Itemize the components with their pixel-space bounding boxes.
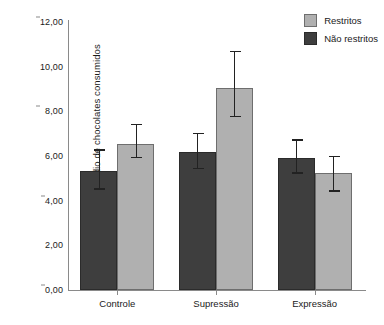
y-axis-tick-label: 10,00 bbox=[40, 62, 63, 72]
y-axis-tick-label: 8,00 bbox=[45, 106, 63, 116]
legend-item-restritos: Restritos bbox=[304, 14, 378, 27]
bar-group bbox=[68, 22, 167, 290]
y-axis-tick-label: 6,00 bbox=[45, 151, 63, 161]
error-bar bbox=[136, 124, 137, 159]
x-axis-label: Controle bbox=[99, 298, 135, 309]
bar-supresso-restritos bbox=[216, 88, 253, 290]
legend: Restritos Não restritos bbox=[304, 14, 378, 45]
bar-group bbox=[167, 22, 266, 290]
error-bar-cap-top bbox=[131, 124, 142, 125]
x-axis-label: Expressão bbox=[292, 298, 337, 309]
error-bar-cap-bottom bbox=[329, 190, 340, 191]
y-axis-tick-label: 12,00 bbox=[40, 17, 63, 27]
y-axis-tick-mark bbox=[41, 285, 45, 286]
error-bar-cap-top bbox=[94, 149, 105, 150]
bar-group bbox=[265, 22, 364, 290]
x-axis-tick-mark bbox=[315, 290, 316, 295]
error-bar bbox=[234, 51, 235, 117]
error-bar-cap-top bbox=[292, 139, 303, 140]
legend-label-nao-restritos: Não restritos bbox=[324, 33, 378, 44]
y-axis-tick-mark bbox=[41, 195, 45, 196]
y-axis-tick-mark bbox=[36, 106, 40, 107]
error-bar-cap-bottom bbox=[193, 168, 204, 169]
y-axis-tick-label: 4,00 bbox=[45, 196, 63, 206]
bar-chart: Número médio de chocolates consumidos 0,… bbox=[0, 0, 384, 325]
y-axis-tick-label: 0,00 bbox=[45, 285, 63, 295]
x-axis-label: Supressão bbox=[193, 298, 238, 309]
y-axis-tick-mark bbox=[36, 17, 40, 18]
error-bar-cap-bottom bbox=[94, 188, 105, 189]
y-axis-tick-label: 2,00 bbox=[45, 240, 63, 250]
error-bar-cap-bottom bbox=[131, 157, 142, 158]
error-bar bbox=[99, 149, 100, 189]
x-axis-tick-mark bbox=[216, 290, 217, 295]
legend-label-restritos: Restritos bbox=[324, 15, 361, 26]
error-bar-cap-top bbox=[193, 133, 204, 134]
error-bar-cap-top bbox=[329, 156, 340, 157]
error-bar-cap-bottom bbox=[292, 172, 303, 173]
legend-swatch-nao-restritos bbox=[304, 32, 317, 45]
bar-supresso-n-o-restritos bbox=[179, 152, 216, 290]
x-axis-line bbox=[68, 290, 366, 291]
bar-expresso-n-o-restritos bbox=[278, 158, 315, 290]
legend-item-nao-restritos: Não restritos bbox=[304, 32, 378, 45]
error-bar bbox=[296, 139, 297, 174]
legend-swatch-restritos bbox=[304, 14, 317, 27]
bar-controle-restritos bbox=[117, 144, 154, 290]
x-axis-tick-mark bbox=[117, 290, 118, 295]
plot-area: 0,002,004,006,008,0010,0012,00 bbox=[68, 22, 364, 290]
error-bar-cap-bottom bbox=[230, 116, 241, 117]
error-bar bbox=[333, 156, 334, 192]
error-bar-cap-top bbox=[230, 51, 241, 52]
error-bar bbox=[197, 133, 198, 170]
